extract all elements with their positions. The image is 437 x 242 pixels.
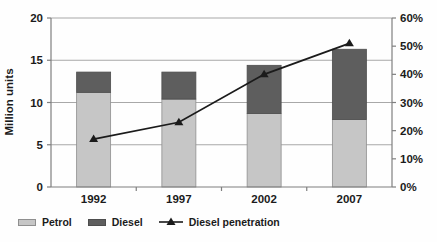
legend-item-petrol: Petrol: [18, 216, 72, 228]
left-axis-tick-label: 0: [37, 181, 43, 193]
bar-petrol-2002: [247, 113, 281, 187]
legend-label-petrol: Petrol: [42, 216, 72, 228]
x-axis-category-label: 2002: [251, 193, 277, 205]
x-axis-category-label: 1997: [166, 193, 192, 205]
right-axis-tick-label: 0%: [400, 181, 417, 193]
x-axis-category-label: 1992: [81, 193, 107, 205]
x-axis-category-label: 2007: [337, 193, 363, 205]
legend-label-diesel-penetration: Diesel penetration: [189, 216, 280, 228]
petrol-swatch-icon: [18, 219, 36, 226]
left-axis-tick-label: 20: [30, 12, 43, 24]
diesel-penetration-figure: 051015200%10%20%30%40%50%60%199219972002…: [0, 0, 437, 242]
stacked-bar-line-chart: 051015200%10%20%30%40%50%60%199219972002…: [0, 0, 437, 214]
legend-item-diesel: Diesel: [88, 216, 143, 228]
bar-diesel-1992: [77, 72, 111, 92]
left-axis-tick-label: 5: [37, 139, 44, 151]
right-axis-tick-label: 60%: [400, 12, 423, 24]
left-axis-tick-label: 15: [30, 54, 43, 66]
right-axis-tick-label: 10%: [400, 153, 423, 165]
legend-item-diesel-penetration: Diesel penetration: [159, 216, 280, 228]
diesel-swatch-icon: [88, 219, 106, 226]
right-axis-tick-label: 30%: [400, 97, 423, 109]
bar-diesel-1997: [162, 72, 196, 99]
chart-legend: Petrol Diesel Diesel penetration: [18, 216, 280, 228]
line-marker-icon: [159, 217, 183, 227]
right-axis-tick-label: 50%: [400, 40, 423, 52]
legend-label-diesel: Diesel: [112, 216, 143, 228]
left-axis-tick-label: 10: [30, 97, 43, 109]
diesel-penetration-line: [94, 43, 350, 139]
right-axis-tick-label: 40%: [400, 68, 423, 80]
right-axis-tick-label: 20%: [400, 125, 423, 137]
left-axis-title: Million units: [3, 68, 15, 135]
bar-petrol-1997: [162, 99, 196, 187]
diesel-penetration-marker-2007: [345, 39, 354, 47]
bar-petrol-2007: [332, 119, 366, 187]
bar-diesel-2007: [332, 49, 366, 119]
